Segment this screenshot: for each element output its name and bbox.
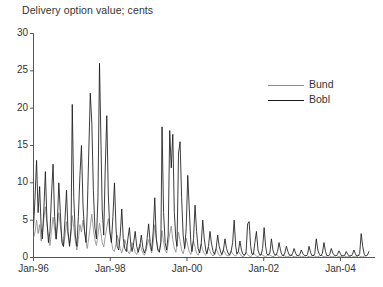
chart-legend: Bund Bobl	[268, 78, 360, 110]
x-tick-label: Jan-04	[310, 263, 370, 274]
legend-item-bund: Bund	[268, 78, 360, 93]
y-tick-label: 0	[2, 251, 28, 262]
legend-swatch-bobl	[268, 100, 304, 101]
legend-item-bobl: Bobl	[268, 93, 360, 108]
y-tick-label: 25	[2, 64, 28, 75]
legend-label-bund: Bund	[309, 78, 334, 90]
x-tick-label: Jan-00	[157, 263, 217, 274]
x-tick-label: Jan-02	[234, 263, 294, 274]
x-tick-label: Jan-96	[4, 263, 64, 274]
y-tick-label: 15	[2, 139, 28, 150]
legend-swatch-bund	[268, 85, 304, 86]
chart-container: Delivery option value; cents 05101520253…	[0, 0, 383, 287]
y-tick-label: 20	[2, 102, 28, 113]
plot-area	[0, 0, 383, 287]
x-tick-label: Jan-98	[80, 263, 140, 274]
y-tick-label: 10	[2, 176, 28, 187]
y-tick-label: 30	[2, 27, 28, 38]
y-tick-label: 5	[2, 214, 28, 225]
legend-label-bobl: Bobl	[309, 93, 330, 105]
